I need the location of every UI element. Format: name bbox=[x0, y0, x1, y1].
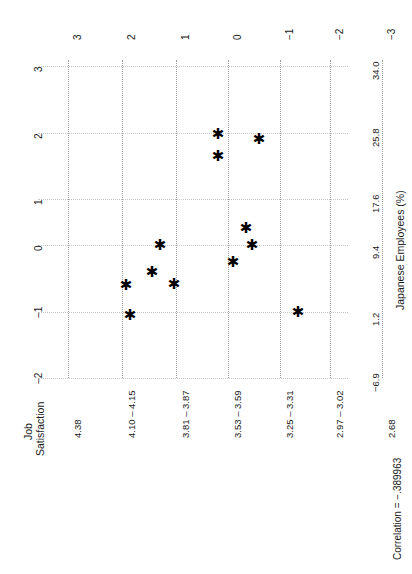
gridline-horizontal bbox=[38, 245, 348, 246]
gridline-horizontal bbox=[38, 199, 348, 200]
japanese-employees-tick-label: 34.0 bbox=[370, 62, 381, 81]
data-point-marker: ✱ bbox=[124, 308, 137, 323]
gridline-vertical bbox=[382, 60, 383, 378]
gridline-vertical bbox=[68, 60, 69, 378]
side-tick-label: 0 bbox=[33, 245, 44, 251]
gridline-vertical bbox=[228, 60, 229, 378]
data-point: ✱ bbox=[218, 134, 219, 135]
data-point-marker: ✱ bbox=[120, 278, 133, 293]
data-point-marker: ✱ bbox=[154, 238, 167, 253]
top-tick-label: 0 bbox=[232, 34, 243, 40]
gridline-vertical bbox=[330, 60, 331, 378]
job-satisfaction-tick-label: 2.97 – 3.02 bbox=[334, 390, 345, 438]
data-point-marker: ✱ bbox=[253, 132, 266, 147]
gridline-horizontal bbox=[38, 133, 348, 134]
data-point: ✱ bbox=[130, 315, 131, 316]
data-point-marker: ✱ bbox=[212, 127, 225, 142]
top-tick-label: 3 bbox=[72, 34, 83, 40]
data-point: ✱ bbox=[126, 285, 127, 286]
data-point: ✱ bbox=[218, 156, 219, 157]
right-axis-title: Japanese Employees (%) bbox=[394, 190, 406, 310]
job-satisfaction-tick-label: 3.81 – 3.87 bbox=[180, 390, 191, 438]
data-point: ✱ bbox=[233, 262, 234, 263]
data-point-marker: ✱ bbox=[240, 221, 253, 236]
data-point: ✱ bbox=[152, 272, 153, 273]
japanese-employees-tick-label: 1.2 bbox=[370, 313, 381, 326]
top-tick-label: −2 bbox=[334, 29, 345, 40]
top-tick-label: −1 bbox=[284, 29, 295, 40]
top-tick-label: 2 bbox=[126, 34, 137, 40]
data-point-marker: ✱ bbox=[146, 265, 159, 280]
japanese-employees-tick-label: 25.8 bbox=[370, 129, 381, 148]
data-point-marker: ✱ bbox=[168, 277, 181, 292]
top-tick-label: −3 bbox=[386, 29, 397, 40]
data-point-marker: ✱ bbox=[292, 305, 305, 320]
gridline-vertical bbox=[122, 60, 123, 378]
top-tick-label: 1 bbox=[180, 34, 191, 40]
side-tick-label: −1 bbox=[33, 307, 44, 318]
japanese-employees-tick-label: 9.4 bbox=[370, 246, 381, 259]
job-satisfaction-tick-label: 3.25 – 3.31 bbox=[284, 390, 295, 438]
gridline-vertical bbox=[176, 60, 177, 378]
data-point-marker: ✱ bbox=[227, 255, 240, 270]
data-point-marker: ✱ bbox=[246, 238, 259, 253]
gridline-vertical bbox=[280, 60, 281, 378]
gridline-horizontal bbox=[38, 378, 348, 379]
data-point: ✱ bbox=[174, 284, 175, 285]
scatter-plot-figure: ✱✱✱✱✱✱✱✱✱✱✱✱ 3210−1−2−3 3210−1−2 4.384.1… bbox=[0, 0, 412, 574]
left-axis-title-line1: Job bbox=[22, 423, 34, 440]
gridline-horizontal bbox=[38, 66, 348, 67]
data-point-marker: ✱ bbox=[212, 149, 225, 164]
side-tick-label: 2 bbox=[33, 133, 44, 139]
plot-grid-area: ✱✱✱✱✱✱✱✱✱✱✱✱ bbox=[38, 60, 348, 378]
side-tick-label: 1 bbox=[33, 199, 44, 205]
job-satisfaction-tick-label: 2.68 bbox=[386, 420, 397, 439]
japanese-employees-tick-label: −6.9 bbox=[370, 373, 381, 392]
left-axis-title-line2: Satisfaction bbox=[34, 402, 46, 456]
correlation-note: Correlation = −.389963 bbox=[392, 458, 403, 560]
data-point: ✱ bbox=[160, 245, 161, 246]
job-satisfaction-tick-label: 4.38 bbox=[72, 420, 83, 439]
job-satisfaction-tick-label: 3.53 – 3.59 bbox=[232, 390, 243, 438]
data-point: ✱ bbox=[259, 139, 260, 140]
job-satisfaction-tick-label: 4.10 – 4.15 bbox=[126, 390, 137, 438]
data-point: ✱ bbox=[246, 228, 247, 229]
side-tick-label: −2 bbox=[33, 373, 44, 384]
japanese-employees-tick-label: 17.6 bbox=[370, 195, 381, 214]
data-point: ✱ bbox=[298, 312, 299, 313]
side-tick-label: 3 bbox=[33, 66, 44, 72]
data-point: ✱ bbox=[252, 245, 253, 246]
